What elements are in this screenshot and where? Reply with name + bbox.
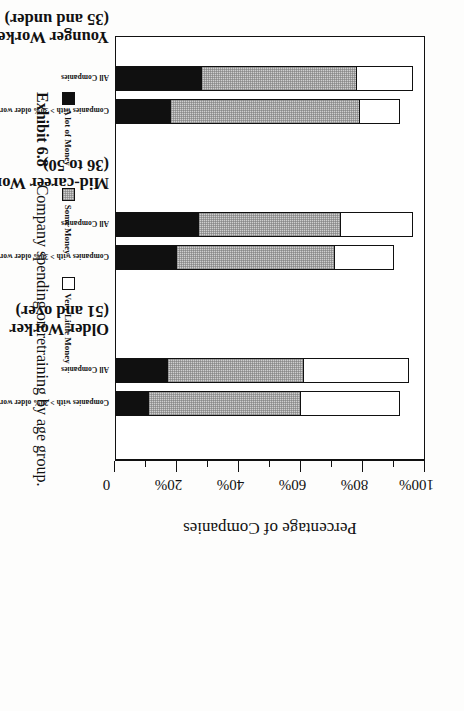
legend-item: Some Money: [62, 187, 75, 254]
bar-segment-some-money: [168, 358, 304, 383]
group-heading: Mid-career Worker(36 to 50): [0, 155, 109, 192]
bar-segment-some-money: [149, 391, 301, 416]
axis-tick-minor: [207, 461, 208, 467]
group-title: Younger Worker: [0, 27, 109, 45]
axis-tick-label: 80%: [341, 476, 369, 493]
axis-title: Percentage of Companies: [115, 518, 425, 538]
axis-tick-major: [238, 461, 239, 472]
legend-label: Some Money: [64, 204, 74, 254]
bar-segment-very-little-money: [301, 391, 400, 416]
bar-segment-a-lot-of-money: [115, 99, 171, 124]
bar-segment-some-money: [177, 245, 335, 270]
bar-category-label: Companies with > 30% older workers: [0, 105, 109, 114]
bar-segment-some-money: [171, 99, 360, 124]
group-heading: Younger Worker(35 and under): [0, 9, 109, 46]
bar-segment-a-lot-of-money: [115, 391, 149, 416]
bar-segment-a-lot-of-money: [115, 358, 168, 383]
bar-segment-very-little-money: [357, 66, 413, 91]
axis-tick-label: 40%: [217, 476, 245, 493]
group-heading: Older Worker(51 and over): [9, 301, 109, 338]
bar-category-label: All Companies: [61, 72, 109, 81]
bars-layer: [115, 36, 425, 460]
bar-segment-very-little-money: [360, 99, 400, 124]
axis-tick-label: 100%: [399, 476, 434, 493]
axis-tick-major: [300, 461, 301, 472]
group-subtitle: (35 and under): [0, 9, 109, 27]
stacked-bar: [115, 358, 409, 383]
legend-swatch-white: [62, 276, 75, 289]
stacked-bar: [115, 99, 400, 124]
bar-segment-some-money: [199, 212, 342, 237]
group-subtitle: (51 and over): [9, 301, 109, 319]
axis-tick-major: [176, 461, 177, 472]
bar-segment-very-little-money: [335, 245, 394, 270]
axis-tick-major: [424, 461, 425, 472]
group-title: Older Worker: [9, 319, 109, 337]
percentage-axis: [115, 460, 425, 461]
group-subtitle: (36 to 50): [0, 155, 109, 173]
axis-tick-major: [362, 461, 363, 472]
stacked-bar: [115, 391, 400, 416]
legend-label: Very Little Money: [64, 293, 74, 363]
figure-caption: Exhibit 6.8 Company spending on retraini…: [33, 92, 51, 486]
bar-segment-some-money: [202, 66, 357, 91]
exhibit-number: Exhibit 6.8: [34, 92, 51, 167]
bar-category-label: Companies with > 30% older workers: [0, 397, 109, 406]
stacked-bar: [115, 66, 413, 91]
legend-label: A lot of Money: [64, 109, 74, 166]
legend-swatch-black: [62, 92, 75, 105]
axis-tick-label: 20%: [155, 476, 183, 493]
stacked-bar: [115, 212, 413, 237]
caption-text: Company spending on retraining by age gr…: [34, 184, 51, 486]
axis-tick-label: 0: [103, 476, 111, 493]
bar-segment-a-lot-of-money: [115, 212, 199, 237]
legend-item: Very Little Money: [62, 276, 75, 363]
bar-segment-a-lot-of-money: [115, 245, 177, 270]
bar-category-label: Companies with > 30% older workers: [0, 251, 109, 260]
axis-tick-label: 60%: [279, 476, 307, 493]
axis-tick-minor: [393, 461, 394, 467]
legend-swatch-gray: [62, 187, 75, 200]
axis-tick-minor: [145, 461, 146, 467]
legend-item: A lot of Money: [62, 92, 75, 166]
bar-segment-very-little-money: [341, 212, 412, 237]
axis-tick-major: [114, 461, 115, 472]
bar-segment-a-lot-of-money: [115, 66, 202, 91]
axis-tick-minor: [269, 461, 270, 467]
legend: A lot of MoneySome MoneyVery Little Mone…: [62, 92, 75, 382]
bar-segment-very-little-money: [304, 358, 409, 383]
group-title: Mid-career Worker: [0, 173, 109, 191]
axis-tick-minor: [331, 461, 332, 467]
stacked-bar: [115, 245, 394, 270]
rotated-figure: 020%40%60%80%100% Percentage of Companie…: [17, 36, 447, 676]
figure-page: 020%40%60%80%100% Percentage of Companie…: [0, 0, 464, 711]
